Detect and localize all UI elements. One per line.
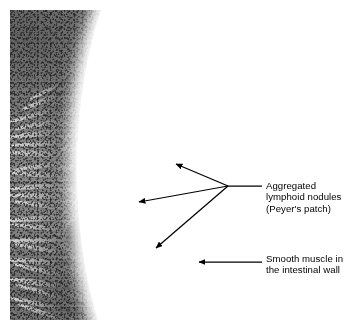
corner-fade-bottom-right bbox=[143, 250, 217, 320]
corner-fade-top-right bbox=[143, 10, 217, 70]
label-smooth-muscle-intestinal-wall: Smooth muscle in the intestinal wall bbox=[266, 253, 343, 276]
label-aggregated-lymphoid-nodules: Aggregated lymphoid nodules (Peyer's pat… bbox=[266, 180, 341, 214]
micrograph-image bbox=[10, 10, 217, 320]
figure-intestinal-wall-micrograph: Aggregated lymphoid nodules (Peyer's pat… bbox=[0, 0, 357, 334]
